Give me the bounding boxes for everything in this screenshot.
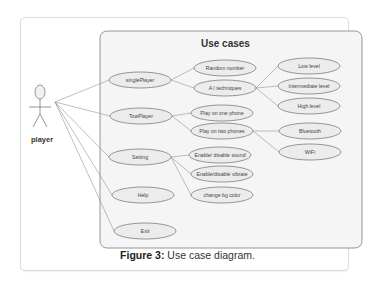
use-case-sound: Enable/ disable sound <box>189 147 251 163</box>
caption-text: Use case diagram. <box>164 249 254 261</box>
use-case-label: Low level <box>298 63 320 69</box>
actor-head-icon <box>35 85 45 99</box>
use-case-help: Help <box>112 187 174 203</box>
use-case-bluetooth: Bluetooth <box>279 123 341 139</box>
use-case-bgcolor: change bg color <box>191 187 253 203</box>
use-case-onephone: Play on one phone <box>191 105 253 121</box>
use-case-wifi: WiFi <box>279 144 341 160</box>
use-case-label: Enable/ disable sound <box>194 152 245 158</box>
use-case-label: WiFi <box>305 149 315 155</box>
use-case-vibrate: Enable/disable vibrate <box>191 166 253 182</box>
use-case-label: Setting <box>132 154 148 160</box>
system-title: Use cases <box>201 38 250 49</box>
use-case-label: Help <box>138 192 149 198</box>
use-case-high: High level <box>278 98 340 114</box>
use-case-label: singlePlayer <box>126 77 155 83</box>
use-case-diagram: Use cases player singlePlayerTowPlayerSe… <box>0 0 375 291</box>
use-case-exit: Exit <box>114 223 176 239</box>
use-case-label: Intermediate level <box>289 83 330 89</box>
use-case-singleplayer: singlePlayer <box>109 72 171 88</box>
use-case-towplayer: TowPlayer <box>110 108 172 124</box>
use-case-label: Exit <box>141 228 150 234</box>
use-case-ai: A I techniques <box>194 80 256 96</box>
caption-prefix: Figure 3: <box>120 249 164 261</box>
use-case-label: Play on one phone <box>200 110 243 116</box>
use-case-label: change bg color <box>204 192 241 198</box>
actor-label: player <box>31 135 53 144</box>
use-case-label: Random number <box>206 65 245 71</box>
use-case-random: Random number <box>194 60 256 76</box>
use-case-low: Low level <box>278 58 340 74</box>
use-case-label: TowPlayer <box>129 113 153 119</box>
use-case-intermediate: Intermediate level <box>278 78 340 94</box>
use-case-label: Play on two phones <box>199 128 245 134</box>
use-case-label: Bluetooth <box>299 128 321 134</box>
use-case-label: Enable/disable vibrate <box>196 171 247 177</box>
actor-player <box>29 85 51 127</box>
use-case-label: A I techniques <box>209 85 242 91</box>
use-case-setting: Setting <box>109 149 171 165</box>
use-case-label: High level <box>298 103 321 109</box>
figure-caption: Figure 3: Use case diagram. <box>0 249 375 261</box>
use-case-twophones: Play on two phones <box>191 123 253 139</box>
